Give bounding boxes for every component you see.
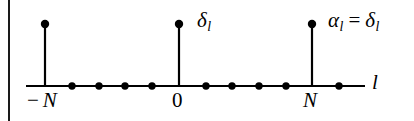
data-point-marker [308, 20, 316, 28]
data-point-marker [68, 82, 75, 89]
alpha-symbol: α [328, 8, 339, 32]
data-point-marker [228, 82, 235, 89]
x-tick-label-zero: 0 [172, 90, 183, 111]
data-point-marker [41, 20, 49, 28]
n-letter: N [303, 88, 317, 112]
delta-symbol: δ [365, 8, 375, 32]
data-point-marker [95, 82, 102, 89]
x-tick-label-minus-n: −N [27, 90, 57, 111]
figure-panel: δl αl=δl −N 0 N l [0, 0, 414, 121]
data-point-marker [282, 82, 289, 89]
minus-sign: − [27, 88, 43, 112]
n-letter: N [43, 88, 57, 112]
data-point-marker [148, 82, 155, 89]
delta-subscript: l [376, 19, 380, 34]
delta-symbol: δ [197, 8, 207, 32]
stem-head-markers [41, 20, 316, 28]
data-point-marker [175, 20, 183, 28]
annotation-alpha-equals-delta: αl=δl [328, 10, 379, 34]
x-axis-label: l [372, 72, 378, 93]
equals-sign: = [343, 8, 365, 32]
stem-group [45, 24, 312, 86]
data-point-marker [335, 82, 342, 89]
data-point-marker [121, 82, 128, 89]
data-point-marker [255, 82, 262, 89]
data-point-marker [202, 82, 209, 89]
annotation-delta-l: δl [197, 10, 211, 34]
x-tick-label-n: N [303, 90, 317, 111]
delta-subscript: l [207, 19, 211, 34]
